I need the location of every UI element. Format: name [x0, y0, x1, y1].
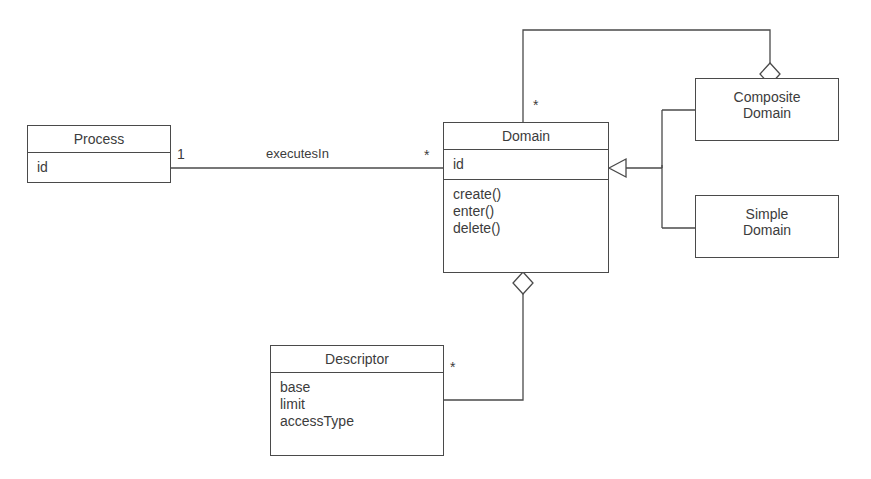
class-name-simple-domain: Simple Domain — [696, 196, 838, 243]
class-operations-domain: create() enter() delete() — [444, 179, 608, 243]
attribute-item: limit — [280, 396, 435, 413]
uml-class-diagram-canvas: Process id Domain id create() enter() de… — [0, 0, 871, 479]
class-name-process: Process — [28, 126, 170, 152]
class-box-process[interactable]: Process id — [27, 125, 171, 183]
aggregation-line-descriptor — [444, 293, 523, 400]
attribute-item: base — [280, 379, 435, 396]
class-name-domain: Domain — [444, 123, 608, 149]
class-box-composite-domain[interactable]: Composite Domain — [695, 78, 839, 141]
class-box-descriptor[interactable]: Descriptor base limit accessType — [270, 345, 444, 456]
multiplicity-domain-top-end: * — [533, 98, 538, 112]
attribute-item: id — [453, 156, 600, 173]
multiplicity-domain-association-end: * — [424, 148, 429, 162]
class-attributes-descriptor: base limit accessType — [271, 372, 443, 436]
multiplicity-descriptor-end: * — [450, 360, 455, 374]
class-attributes-domain: id — [444, 149, 608, 179]
aggregation-diamond-domain — [513, 272, 533, 294]
multiplicity-process-end: 1 — [177, 147, 185, 161]
class-name-composite-domain: Composite Domain — [696, 79, 838, 126]
attribute-item: id — [37, 159, 162, 176]
association-label-executes-in: executesIn — [266, 146, 329, 161]
operation-item: enter() — [453, 203, 600, 220]
class-box-domain[interactable]: Domain id create() enter() delete() — [443, 122, 609, 273]
class-attributes-process: id — [28, 152, 170, 182]
attribute-item: accessType — [280, 413, 435, 430]
operation-item: delete() — [453, 220, 600, 237]
class-name-descriptor: Descriptor — [271, 346, 443, 372]
operation-item: create() — [453, 186, 600, 203]
generalization-triangle — [609, 159, 626, 177]
class-box-simple-domain[interactable]: Simple Domain — [695, 195, 839, 258]
